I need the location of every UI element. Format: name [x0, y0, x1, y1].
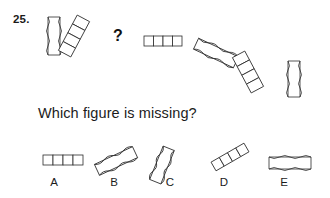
option-a-figure[interactable] — [42, 152, 84, 168]
sequence-figure-4 — [143, 33, 183, 49]
option-label-a[interactable]: A — [44, 176, 64, 188]
option-label-d[interactable]: D — [214, 176, 234, 188]
option-d-figure[interactable] — [209, 141, 251, 173]
option-label-b[interactable]: B — [104, 176, 124, 188]
sequence-figure-6 — [229, 48, 267, 96]
page-title: Which figure is missing? — [38, 105, 197, 121]
puzzle-canvas: 25. ? — [0, 0, 330, 198]
question-number: 25. — [13, 13, 30, 25]
option-label-e[interactable]: E — [274, 176, 294, 188]
missing-figure-question-mark: ? — [113, 27, 123, 45]
sequence-figure-7 — [286, 60, 302, 98]
option-label-c[interactable]: C — [160, 176, 180, 188]
option-e-figure[interactable] — [268, 155, 312, 171]
option-b-figure[interactable] — [92, 144, 139, 179]
